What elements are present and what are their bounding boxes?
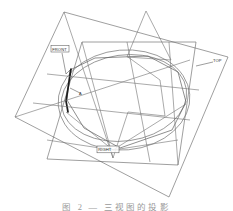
- projector-line-3: [82, 42, 113, 158]
- point-a-text: A: [79, 91, 82, 96]
- inscribed-polygon: [67, 56, 186, 148]
- front-label-text: FRONT: [52, 47, 67, 52]
- projector-line-4: [127, 42, 150, 162]
- figure-root: FRONT TOP RIGHT A 图 2 — 三视图的投影: [0, 0, 233, 211]
- projection-drawing: FRONT TOP RIGHT A: [0, 0, 233, 211]
- label-front: FRONT: [51, 46, 69, 53]
- label-right: RIGHT: [97, 146, 119, 153]
- projector-line-5: [169, 42, 178, 165]
- top-label-leader: [196, 62, 213, 66]
- projector-line-2: [33, 103, 190, 120]
- label-top: TOP: [213, 58, 222, 63]
- label-point-a: A: [79, 91, 82, 96]
- right-label-text: RIGHT: [98, 147, 112, 152]
- top-label-text: TOP: [213, 58, 222, 63]
- figure-caption: 图 2 — 三视图的投影: [0, 202, 233, 211]
- front-label-leader: [62, 53, 70, 74]
- fold-polyline: [113, 57, 165, 158]
